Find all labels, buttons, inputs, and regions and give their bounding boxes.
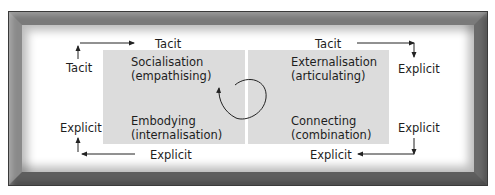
spiral-arrow-icon — [219, 79, 266, 119]
arrows-layer — [0, 0, 495, 195]
